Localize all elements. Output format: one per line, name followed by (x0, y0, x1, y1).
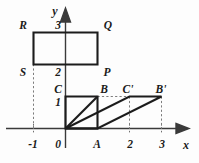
label-C: C (54, 83, 62, 95)
x-tick-label-3: 3 (158, 138, 165, 150)
x-tick-label-origin: 0 (55, 138, 61, 150)
axis-name-labels-group: x y (50, 4, 189, 152)
x-axis-arrowhead (176, 124, 189, 134)
y-axis-arrowhead (61, 8, 71, 22)
vertex-labels-group: R Q S P C B C' B' (18, 19, 166, 95)
parallelogram-oabprimecprime (66, 97, 162, 129)
square-oabc-group (66, 97, 98, 129)
y-tick-label-1: 1 (55, 96, 61, 108)
x-tick-label-minus1: -1 (28, 138, 38, 150)
label-S: S (20, 66, 26, 78)
label-B: B (99, 83, 108, 95)
label-Q: Q (104, 19, 112, 31)
diagonal-ob (66, 97, 98, 129)
y-tick-label-3: 3 (54, 19, 61, 31)
y-axis-label: y (50, 4, 58, 18)
label-P: P (103, 66, 111, 78)
coordinate-geometry-figure: R Q S P C B C' B' 3 2 1 -1 0 A 2 3 x y (0, 0, 199, 163)
label-B-prime: B' (155, 83, 167, 95)
y-tick-label-2: 2 (54, 66, 61, 78)
diagram-canvas: R Q S P C B C' B' 3 2 1 -1 0 A 2 3 x y (0, 0, 199, 163)
label-C-prime: C' (123, 83, 134, 95)
x-tick-labels-group: -1 0 A 2 3 (28, 138, 165, 150)
x-axis-label: x (182, 138, 189, 152)
x-tick-label-2: 2 (126, 138, 133, 150)
parallelogram-oabprimecprime-group (66, 97, 162, 129)
x-tick-label-A: A (92, 138, 101, 150)
label-R: R (18, 19, 27, 31)
